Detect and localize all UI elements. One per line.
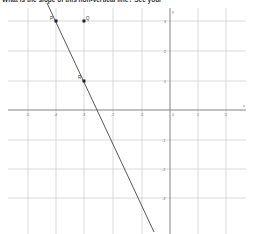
x-tick-label: -5 — [26, 113, 29, 117]
point-p-marker — [55, 20, 58, 23]
coordinate-plane: x y 0 -5 -4 -3 -2 -1 1 2 3 2 1 -1 -2 -3 … — [0, 0, 254, 234]
y-tick-label: 2 — [164, 50, 166, 54]
y-tick-label: -2 — [162, 168, 165, 172]
y-tick-label: -1 — [162, 139, 165, 143]
x-tick-label: 2 — [225, 113, 227, 117]
origin-label: 0 — [172, 113, 174, 117]
y-tick-label: 3 — [164, 20, 166, 24]
y-tick-label: -3 — [162, 197, 165, 201]
y-axis-label: y — [172, 10, 174, 14]
x-tick-label: -1 — [140, 113, 143, 117]
x-tick-label: -3 — [82, 113, 85, 117]
x-tick-label: -2 — [111, 113, 114, 117]
point-p-label: P — [50, 16, 53, 21]
point-q-label: Q — [86, 16, 90, 21]
grid-lines — [8, 8, 246, 234]
x-tick-label: 1 — [197, 113, 199, 117]
y-tick-label: 1 — [164, 80, 166, 84]
x-axis-label: x — [243, 104, 245, 108]
x-tick-label: -4 — [54, 113, 57, 117]
point-r-marker — [83, 80, 86, 83]
